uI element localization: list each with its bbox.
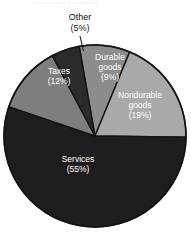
pie-label-durable-goods-line2: goods [86,62,134,72]
pie-label-other-pct: (5%) [52,23,108,34]
pie-label-taxes-pct: (12%) [36,76,82,86]
pie-label-taxes-name: Taxes [48,66,70,76]
pie-label-nondurable-goods-line2: goods [108,100,172,110]
pie-label-other-name: Other [69,12,92,22]
pie-label-other: Other (5%) [52,12,108,34]
pie-label-taxes: Taxes (12%) [36,66,82,86]
pie-label-services-name: Services [62,154,95,164]
pie-label-durable-goods-line1: Durable [95,52,125,62]
pie-label-durable-goods: Durable goods (9%) [86,52,134,82]
pie-label-nondurable-goods-pct: (19%) [108,110,172,120]
pie-label-services-pct: (55%) [48,164,108,174]
pie-label-nondurable-goods-line1: Nondurable [118,90,162,100]
pie-label-nondurable-goods: Nondurable goods (19%) [108,90,172,120]
pie-label-services: Services (55%) [48,154,108,174]
pie-label-durable-goods-pct: (9%) [86,72,134,82]
pie-chart-figure: -- consumer spending -- Other (5%) Durab… [0,0,191,236]
